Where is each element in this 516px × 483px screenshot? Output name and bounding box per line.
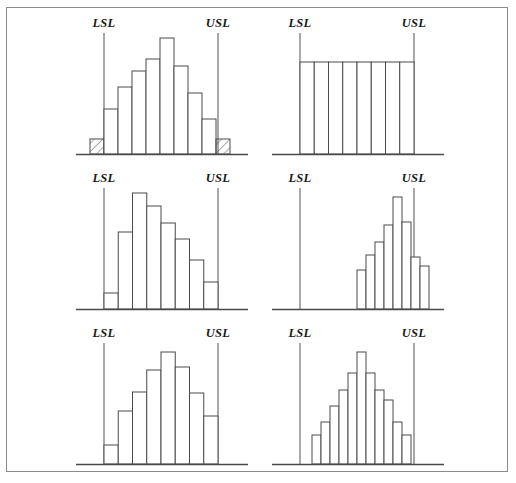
bar	[161, 352, 175, 464]
bar	[411, 257, 420, 309]
usl-label: USL	[402, 326, 427, 340]
bar	[147, 370, 161, 464]
bar	[357, 270, 366, 309]
bar	[104, 293, 118, 309]
panel-middle-right: LSL USL	[262, 169, 452, 317]
bar	[321, 422, 330, 464]
bar	[133, 193, 147, 309]
bar	[400, 62, 414, 154]
panel-bottom-right-plot: LSL USL	[262, 324, 452, 472]
bar	[312, 435, 321, 464]
bar	[386, 62, 400, 154]
bar	[132, 71, 146, 154]
bar-out-of-spec-upper	[216, 139, 230, 154]
bar	[204, 282, 218, 309]
histogram-bars	[357, 197, 429, 309]
histogram-bars	[104, 352, 218, 464]
histogram-bars	[104, 193, 218, 309]
bar	[118, 411, 132, 464]
bar	[147, 206, 161, 309]
bar	[300, 62, 314, 154]
bar	[393, 422, 402, 464]
bar	[118, 232, 132, 309]
bar	[357, 62, 371, 154]
panel-top-right-plot: LSL USL	[262, 14, 452, 162]
bar	[371, 62, 385, 154]
bar	[348, 373, 357, 464]
panel-top-left: LSL USL	[66, 14, 256, 162]
bar	[375, 242, 384, 309]
bar	[314, 62, 328, 154]
panel-middle-left: LSL USL	[66, 169, 256, 317]
usl-label: USL	[206, 16, 231, 30]
bar	[175, 367, 189, 464]
panel-middle-right-plot: LSL USL	[262, 169, 452, 317]
bar	[366, 255, 375, 309]
bar	[190, 260, 204, 309]
bar	[330, 406, 339, 464]
bar	[133, 392, 147, 464]
bar	[104, 109, 118, 154]
panel-bottom-right: LSL USL	[262, 324, 452, 472]
histogram-bars	[90, 38, 230, 154]
bar	[146, 59, 160, 154]
bar	[384, 400, 393, 464]
bar	[402, 435, 411, 464]
bar	[204, 416, 218, 464]
bar	[190, 393, 204, 464]
bar	[339, 390, 348, 464]
figure-root: LSL USL LSL USL	[0, 0, 516, 483]
bar	[175, 239, 189, 309]
histogram-bars	[312, 352, 411, 464]
lsl-label: LSL	[287, 326, 311, 340]
bar	[420, 266, 429, 309]
bar	[357, 352, 366, 464]
bar	[202, 119, 216, 154]
lsl-label: LSL	[91, 326, 115, 340]
lsl-label: LSL	[287, 16, 311, 30]
bar	[343, 62, 357, 154]
bar	[104, 445, 118, 464]
bar	[161, 223, 175, 309]
usl-label: USL	[206, 326, 231, 340]
bar	[366, 373, 375, 464]
bar-out-of-spec-lower	[90, 139, 104, 154]
usl-label: USL	[206, 171, 231, 185]
lsl-label: LSL	[91, 171, 115, 185]
bar	[160, 38, 174, 154]
usl-label: USL	[402, 171, 427, 185]
panel-top-right: LSL USL	[262, 14, 452, 162]
bar	[118, 87, 132, 154]
bar	[402, 222, 411, 309]
usl-label: USL	[402, 16, 427, 30]
bar	[375, 390, 384, 464]
bar	[384, 225, 393, 309]
bar	[329, 62, 343, 154]
bar	[174, 66, 188, 154]
lsl-label: LSL	[287, 171, 311, 185]
bar	[188, 93, 202, 154]
bar	[393, 197, 402, 309]
histogram-bars	[300, 62, 414, 154]
panel-middle-left-plot: LSL USL	[66, 169, 256, 317]
lsl-label: LSL	[91, 16, 115, 30]
panel-bottom-left: LSL USL	[66, 324, 256, 472]
panel-top-left-plot: LSL USL	[66, 14, 256, 162]
panel-bottom-left-plot: LSL USL	[66, 324, 256, 472]
